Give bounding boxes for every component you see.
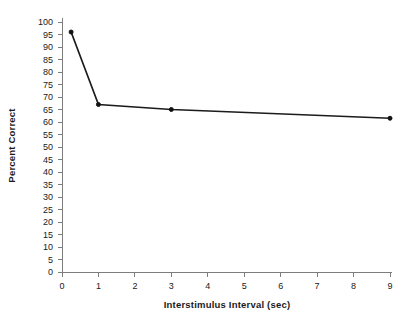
x-axis-tick-labels: 0123456789 bbox=[59, 281, 392, 291]
svg-text:15: 15 bbox=[43, 230, 53, 240]
svg-text:7: 7 bbox=[315, 281, 320, 291]
svg-text:70: 70 bbox=[43, 92, 53, 102]
svg-text:80: 80 bbox=[43, 67, 53, 77]
svg-text:0: 0 bbox=[48, 267, 53, 277]
svg-text:5: 5 bbox=[242, 281, 247, 291]
svg-text:25: 25 bbox=[43, 205, 53, 215]
svg-text:50: 50 bbox=[43, 142, 53, 152]
svg-text:100: 100 bbox=[38, 17, 53, 27]
svg-text:30: 30 bbox=[43, 192, 53, 202]
svg-text:95: 95 bbox=[43, 30, 53, 40]
svg-text:8: 8 bbox=[351, 281, 356, 291]
svg-text:60: 60 bbox=[43, 117, 53, 127]
svg-text:40: 40 bbox=[43, 167, 53, 177]
y-axis-tick-labels: 0510152025303540455055606570758085909510… bbox=[38, 17, 53, 277]
svg-text:20: 20 bbox=[43, 217, 53, 227]
svg-text:35: 35 bbox=[43, 180, 53, 190]
svg-text:2: 2 bbox=[132, 281, 137, 291]
svg-text:10: 10 bbox=[43, 242, 53, 252]
svg-text:75: 75 bbox=[43, 80, 53, 90]
x-axis-label: Interstimulus Interval (sec) bbox=[62, 299, 392, 310]
svg-text:45: 45 bbox=[43, 155, 53, 165]
data-series-line bbox=[71, 32, 390, 118]
svg-text:9: 9 bbox=[387, 281, 392, 291]
svg-text:90: 90 bbox=[43, 42, 53, 52]
svg-text:1: 1 bbox=[96, 281, 101, 291]
svg-text:85: 85 bbox=[43, 55, 53, 65]
svg-text:0: 0 bbox=[59, 281, 64, 291]
svg-text:4: 4 bbox=[205, 281, 210, 291]
svg-text:65: 65 bbox=[43, 105, 53, 115]
svg-text:55: 55 bbox=[43, 130, 53, 140]
x-axis-tick-marks bbox=[62, 272, 390, 277]
chart-container: Percent Correct 051015202530354045505560… bbox=[0, 0, 420, 324]
data-point-markers bbox=[69, 30, 392, 120]
chart-plot-area: 0510152025303540455055606570758085909510… bbox=[0, 0, 420, 324]
y-axis-tick-marks bbox=[58, 22, 62, 272]
svg-text:6: 6 bbox=[278, 281, 283, 291]
svg-text:5: 5 bbox=[48, 255, 53, 265]
svg-text:3: 3 bbox=[169, 281, 174, 291]
